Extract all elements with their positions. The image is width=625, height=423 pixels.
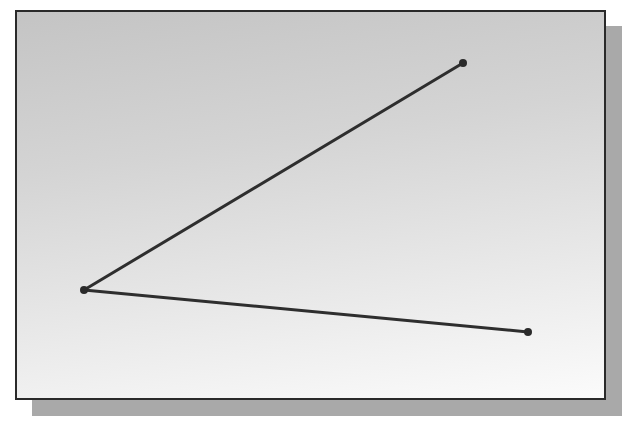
line-segment-upper[interactable]: [84, 63, 463, 290]
drawing-canvas[interactable]: [0, 0, 625, 423]
lower-endpoint-point[interactable]: [524, 328, 532, 336]
vertex-point[interactable]: [80, 286, 88, 294]
line-segment-lower[interactable]: [84, 290, 528, 332]
upper-endpoint-point[interactable]: [459, 59, 467, 67]
